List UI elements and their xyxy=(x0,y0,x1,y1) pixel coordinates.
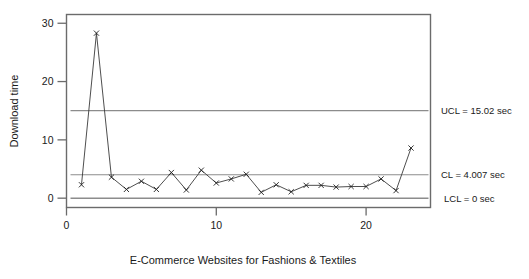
x-axis-title: E-Commerce Websites for Fashions & Texti… xyxy=(130,254,357,266)
reference-label-ucl: UCL = 15.02 sec xyxy=(441,105,512,116)
y-tick-label: 20 xyxy=(42,75,54,87)
reference-label-lcl: LCL = 0 sec xyxy=(444,193,495,204)
x-tick-label: 20 xyxy=(360,219,372,231)
y-tick-label: 10 xyxy=(42,134,54,146)
chart-canvas: 0102030 01020 Download time E-Commerce W… xyxy=(0,0,529,279)
reference-label-cl: CL = 4.007 sec xyxy=(441,169,505,180)
x-tick-label: 10 xyxy=(210,219,222,231)
chart-background xyxy=(0,0,529,279)
y-tick-label: 30 xyxy=(42,17,54,29)
x-tick-label: 0 xyxy=(64,219,70,231)
y-axis-title: Download time xyxy=(8,75,20,148)
y-tick-label: 0 xyxy=(48,192,54,204)
control-chart: 0102030 01020 Download time E-Commerce W… xyxy=(0,0,529,279)
